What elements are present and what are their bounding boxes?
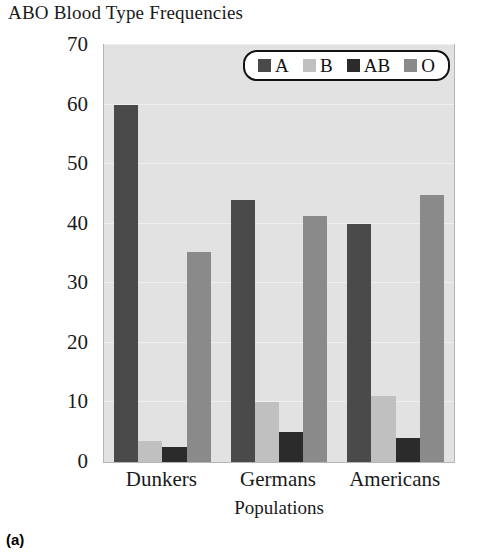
legend-label: A (275, 56, 289, 75)
gridline (104, 104, 454, 105)
bar (420, 195, 444, 462)
y-tick-label: 0 (78, 451, 89, 472)
bar (255, 402, 279, 462)
bar (396, 438, 420, 462)
bar (303, 216, 327, 462)
y-axis-tick-labels: 010203040506070 (0, 44, 96, 463)
figure-caption: (a) (6, 531, 24, 548)
x-tick-label-americans: Americans (336, 466, 453, 492)
bar (347, 224, 371, 462)
gridline (104, 342, 454, 343)
gridline (104, 223, 454, 224)
bar (279, 432, 303, 462)
y-tick-label: 60 (67, 94, 88, 115)
legend-swatch-icon (347, 59, 360, 72)
gridline (104, 401, 454, 402)
legend-item-a: A (258, 56, 289, 75)
x-axis-title: Populations (103, 497, 455, 519)
bar (114, 105, 138, 462)
x-tick-label-dunkers: Dunkers (103, 466, 220, 492)
gridline (104, 44, 454, 45)
y-tick-label: 40 (67, 213, 88, 234)
bar (371, 396, 395, 462)
y-tick-label: 70 (67, 34, 88, 55)
y-tick-label: 50 (67, 153, 88, 174)
y-tick-label: 10 (67, 391, 88, 412)
bar (231, 200, 255, 462)
chart-plot-area (103, 44, 455, 463)
bar (187, 252, 211, 462)
page-title: ABO Blood Type Frequencies (8, 2, 243, 24)
legend-item-b: B (303, 56, 333, 75)
legend-swatch-icon (404, 59, 417, 72)
x-tick-label-germans: Germans (220, 466, 337, 492)
legend-item-o: O (404, 56, 435, 75)
gridline (104, 282, 454, 283)
legend-label: AB (364, 56, 390, 75)
bar (162, 447, 186, 462)
legend-item-ab: AB (347, 56, 390, 75)
legend-label: O (421, 56, 435, 75)
bar (138, 441, 162, 462)
y-tick-label: 30 (67, 272, 88, 293)
legend-label: B (320, 56, 333, 75)
legend-swatch-icon (258, 59, 271, 72)
chart-legend: ABABO (243, 50, 450, 81)
chart-plot-inner (104, 45, 454, 462)
y-tick-label: 20 (67, 332, 88, 353)
x-axis-tick-labels: DunkersGermansAmericans (103, 466, 455, 494)
gridline (104, 163, 454, 164)
legend-swatch-icon (303, 59, 316, 72)
